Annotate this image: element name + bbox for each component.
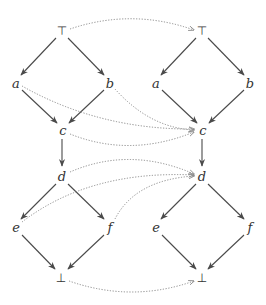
node-top-right: ⊤	[197, 24, 207, 38]
edge-top-b-right	[208, 38, 244, 75]
right-lattice-nodes: ⊤ a b c d e f ⊥	[152, 24, 254, 285]
edge-a-c-right	[162, 90, 197, 123]
edge-d-e-right	[161, 184, 196, 219]
edge-top-b-left	[68, 38, 104, 75]
mapping-arrows	[22, 19, 194, 292]
right-lattice-edges	[161, 38, 244, 269]
map-e-d	[22, 175, 194, 222]
edge-b-c-left	[69, 90, 104, 123]
map-bot-bot	[69, 281, 194, 292]
edge-top-a-right	[161, 38, 196, 75]
edge-e-bot-left	[22, 235, 55, 269]
left-lattice-nodes: ⊤ a b c d e f ⊥	[12, 24, 114, 285]
node-a-right: a	[152, 76, 160, 91]
edge-f-bot-right	[208, 235, 244, 269]
node-f-left: f	[107, 220, 115, 235]
left-lattice-edges	[21, 38, 104, 269]
node-e-left: e	[12, 220, 20, 235]
map-top-top	[70, 19, 194, 30]
edge-b-c-right	[209, 90, 244, 123]
node-d-right: d	[198, 169, 206, 184]
node-a-left: a	[12, 76, 20, 91]
node-b-right: b	[246, 76, 254, 91]
edge-d-e-left	[21, 184, 56, 219]
node-d-left: d	[58, 169, 66, 184]
edge-d-f-left	[68, 184, 104, 219]
node-c-right: c	[199, 123, 207, 138]
node-bot-right: ⊥	[197, 271, 207, 285]
lattice-mapping-diagram: ⊤ a b c d e f ⊥ ⊤ a b c d e f ⊥	[0, 0, 266, 305]
edge-e-bot-right	[162, 235, 196, 269]
edge-d-f-right	[208, 184, 244, 219]
map-d-d	[70, 159, 194, 174]
node-b-left: b	[106, 76, 114, 91]
map-c-c	[70, 132, 194, 146]
edge-top-a-left	[21, 38, 56, 75]
node-bot-left: ⊥	[56, 271, 66, 285]
map-a-c	[22, 86, 194, 129]
node-top-left: ⊤	[57, 24, 67, 38]
node-f-right: f	[247, 220, 255, 235]
node-e-right: e	[152, 220, 160, 235]
edge-f-bot-left	[68, 235, 104, 269]
node-c-left: c	[59, 123, 67, 138]
